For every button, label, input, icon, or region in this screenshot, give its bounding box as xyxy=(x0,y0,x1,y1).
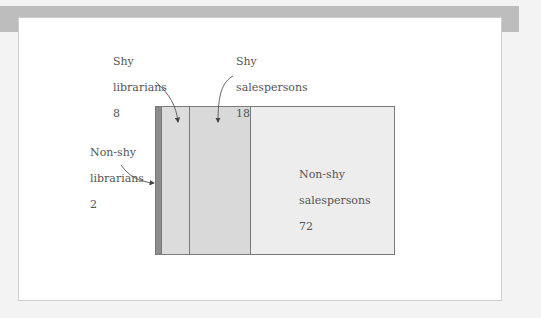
label-value: 18 xyxy=(236,107,308,120)
label-line: Shy xyxy=(236,55,308,68)
label-line: Non-shy xyxy=(299,168,371,181)
label-line: librarians xyxy=(90,172,144,185)
label-shy-salespersons: Shy salespersons 18 xyxy=(236,42,308,133)
label-line: Non-shy xyxy=(90,146,144,159)
label-value: 8 xyxy=(113,107,167,120)
label-non-shy-salespersons: Non-shy salespersons 72 xyxy=(299,155,371,246)
label-value: 72 xyxy=(299,220,371,233)
label-value: 2 xyxy=(90,198,144,211)
label-non-shy-librarians: Non-shy librarians 2 xyxy=(90,133,144,224)
label-shy-librarians: Shy librarians 8 xyxy=(113,42,167,133)
label-line: Shy xyxy=(113,55,167,68)
label-line: salespersons xyxy=(299,194,371,207)
label-line: salespersons xyxy=(236,81,308,94)
label-line: librarians xyxy=(113,81,167,94)
